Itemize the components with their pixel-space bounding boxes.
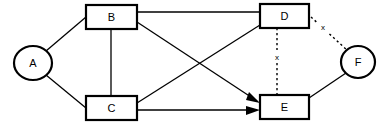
node-e[interactable]: E: [260, 95, 309, 119]
node-c[interactable]: C: [86, 96, 137, 120]
diagram-canvas: x x A B C: [0, 0, 388, 132]
node-c-label: C: [108, 102, 116, 114]
edge-a-b: [46, 17, 86, 51]
node-f[interactable]: F: [341, 46, 375, 78]
arrowhead-b-e: [246, 92, 260, 103]
arrowhead-c-e: [246, 106, 260, 115]
node-f-label: F: [355, 56, 362, 68]
node-a-label: A: [29, 57, 37, 69]
edge-d-e-label: x: [275, 53, 279, 62]
node-a[interactable]: A: [14, 46, 52, 80]
edge-a-c: [46, 75, 86, 108]
node-d-label: D: [281, 10, 289, 22]
node-d[interactable]: D: [260, 4, 309, 28]
node-e-label: E: [281, 101, 288, 113]
graph-svg: x x A B C: [0, 0, 388, 132]
node-b-label: B: [108, 11, 115, 23]
node-b[interactable]: B: [86, 5, 137, 29]
edge-d-f-label: x: [321, 23, 325, 32]
edge-e-f: [309, 73, 346, 98]
edge-b-e: [137, 22, 257, 101]
